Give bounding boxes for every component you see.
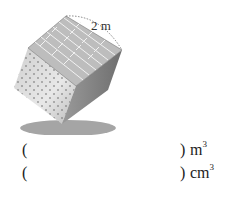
open-paren: ( bbox=[22, 141, 27, 159]
cube-figure: 2 m bbox=[0, 0, 140, 135]
side-length-label: 2 m bbox=[91, 18, 111, 34]
answer-row-m3: ( ) m3 bbox=[22, 141, 222, 161]
shadow-ellipse bbox=[20, 120, 116, 135]
answer-row-cm3: ( ) cm3 bbox=[22, 164, 222, 184]
open-paren: ( bbox=[22, 164, 27, 182]
unit-label: m3 bbox=[190, 141, 207, 159]
close-paren: ) bbox=[180, 164, 185, 182]
cube-illustration bbox=[0, 0, 140, 135]
close-paren: ) bbox=[180, 141, 185, 159]
unit-label: cm3 bbox=[190, 164, 214, 182]
